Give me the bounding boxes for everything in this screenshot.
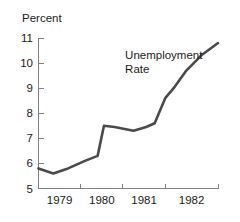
x-axis-tick-labels: 1979198019811982 bbox=[47, 194, 205, 206]
x-axis-tick-marks bbox=[39, 184, 219, 189]
y-axis-title: Percent bbox=[22, 12, 62, 24]
x-tick-label: 1979 bbox=[47, 194, 73, 206]
y-tick-label: 11 bbox=[21, 32, 33, 44]
x-tick-label: 1982 bbox=[179, 194, 205, 206]
x-tick-label: 1980 bbox=[89, 194, 115, 206]
chart-canvas: Percent 567891011 1979198019811982 Unemp… bbox=[0, 0, 240, 222]
y-tick-label: 10 bbox=[20, 57, 33, 69]
y-tick-label: 8 bbox=[27, 107, 33, 119]
y-axis-tick-labels: 567891011 bbox=[20, 32, 33, 195]
y-tick-label: 5 bbox=[27, 183, 33, 195]
annotation-line: Rate bbox=[125, 63, 149, 75]
annotation-line: Unemployment bbox=[125, 49, 203, 61]
y-tick-label: 6 bbox=[27, 157, 33, 169]
chart-annotations: UnemploymentRate bbox=[125, 49, 203, 75]
y-tick-label: 9 bbox=[27, 82, 33, 94]
unemployment-rate-chart: Percent 567891011 1979198019811982 Unemp… bbox=[0, 0, 240, 222]
x-tick-label: 1981 bbox=[131, 194, 157, 206]
y-axis-tick-marks bbox=[39, 38, 44, 163]
y-tick-label: 7 bbox=[27, 132, 33, 144]
